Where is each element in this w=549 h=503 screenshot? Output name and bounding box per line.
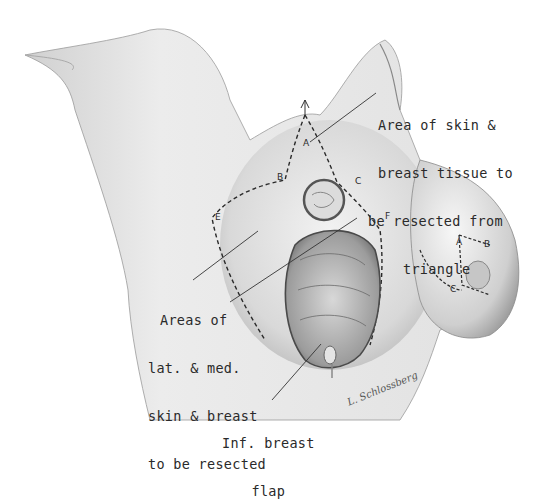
label-line: Areas of <box>160 312 266 328</box>
label-line: Area of skin & <box>378 117 513 133</box>
label-line: triangle <box>403 261 513 277</box>
label-line: flap <box>222 483 315 499</box>
point-c-left: C <box>355 177 361 186</box>
label-line: be resected from <box>368 213 513 229</box>
label-line: breast tissue to <box>378 165 513 181</box>
label-inferior-breast-flap: Inf. breast flap <box>222 403 315 503</box>
label-triangle-area: Area of skin & breast tissue to be resec… <box>378 85 513 309</box>
point-e-left: E <box>215 213 221 222</box>
point-a-left: A <box>303 139 309 148</box>
label-line: Inf. breast <box>222 435 315 451</box>
label-line: lat. & med. <box>148 360 266 376</box>
point-b-left: B <box>277 173 283 182</box>
